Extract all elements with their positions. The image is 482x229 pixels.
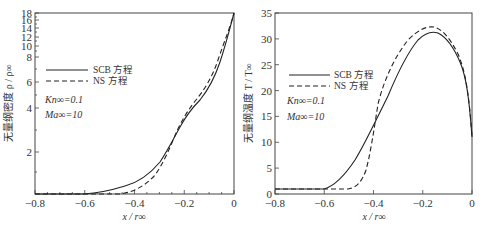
y-tick-label: 6 xyxy=(27,76,33,88)
density-x-axis-title: x / r∞ xyxy=(121,211,145,222)
temperature-y-tick-labels: 35 30 25 20 15 10 5 0 xyxy=(261,7,273,200)
temperature-curve-ns xyxy=(275,27,472,189)
density-chart: 18 16 14 12 10 8 6 4 2 xyxy=(2,7,237,222)
legend-label-scb: SCB 方程 xyxy=(93,64,133,75)
mach-number-label: Ma∞=10 xyxy=(286,111,324,122)
x-tick-label: −0.4 xyxy=(364,197,384,209)
temperature-legend: SCB 方程 NS 方程 xyxy=(289,69,374,91)
y-tick-label: 20 xyxy=(261,85,273,97)
y-tick-label: 5 xyxy=(267,162,273,174)
figure: 18 16 14 12 10 8 6 4 2 xyxy=(0,0,482,229)
knudsen-number-label: Kn∞=0.1 xyxy=(44,94,83,105)
x-tick-label: −0.8 xyxy=(265,197,285,209)
x-tick-label: 0 xyxy=(469,197,475,209)
density-y-axis-title: 无量纲密度 ρ / ρ∞ xyxy=(2,64,14,141)
x-tick-label: −0.6 xyxy=(75,197,95,209)
legend-label-scb: SCB 方程 xyxy=(334,69,374,80)
y-tick-label: 35 xyxy=(261,7,273,19)
temperature-y-axis-title: 无量纲温度 T / T∞ xyxy=(242,63,254,142)
mach-number-label: Ma∞=10 xyxy=(44,109,82,120)
density-y-ticks xyxy=(35,13,39,172)
y-tick-label: 8 xyxy=(27,51,33,63)
temperature-x-tick-labels: −0.8 −0.6 −0.4 −0.2 0 xyxy=(265,197,475,209)
x-tick-label: 0 xyxy=(231,197,237,209)
density-x-tick-labels: −0.8 −0.6 −0.4 −0.2 0 xyxy=(25,197,237,209)
density-legend: SCB 方程 NS 方程 xyxy=(46,64,133,86)
y-tick-label: 2 xyxy=(27,146,33,158)
temperature-x-ticks xyxy=(275,190,472,194)
knudsen-number-label: Kn∞=0.1 xyxy=(286,95,325,106)
y-tick-label: 4 xyxy=(27,102,33,114)
density-y-tick-labels: 18 16 14 12 10 8 6 4 2 xyxy=(21,7,33,158)
y-tick-label: 10 xyxy=(261,136,273,148)
x-tick-label: −0.4 xyxy=(125,197,145,209)
y-tick-label: 25 xyxy=(261,59,273,71)
legend-label-ns: NS 方程 xyxy=(334,80,369,91)
temperature-chart: 35 30 25 20 15 10 5 0 −0.8 −0.6 −0.4 −0.… xyxy=(242,7,475,222)
temperature-x-axis-title: x / r∞ xyxy=(361,211,385,222)
temperature-y-ticks xyxy=(275,13,279,194)
x-tick-label: −0.2 xyxy=(413,197,433,209)
y-tick-label: 15 xyxy=(261,110,273,122)
legend-label-ns: NS 方程 xyxy=(93,75,128,86)
x-tick-label: −0.2 xyxy=(174,197,194,209)
y-tick-label: 30 xyxy=(261,33,273,45)
x-tick-label: −0.6 xyxy=(314,197,334,209)
x-tick-label: −0.8 xyxy=(25,197,45,209)
